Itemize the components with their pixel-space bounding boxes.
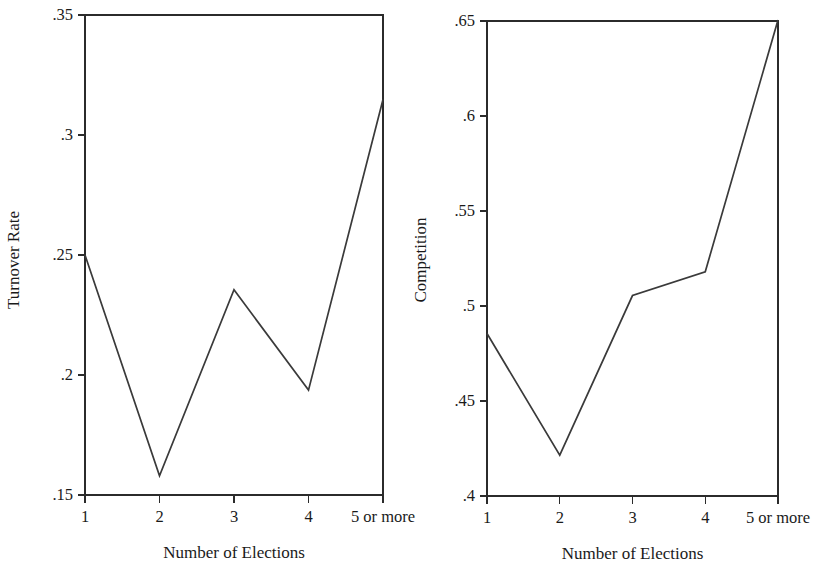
- x-tick-label: 2: [155, 509, 163, 526]
- x-tick-label: 2: [556, 510, 564, 527]
- figure-two-panel-line-charts: Turnover Rate .15.2.25.3.35 12345 or mor…: [0, 0, 814, 571]
- y-tick-label: .15: [0, 487, 73, 504]
- x-tick-label: 4: [304, 509, 312, 526]
- y-tick-label: .5: [407, 298, 475, 315]
- y-tick-label: .45: [407, 393, 475, 410]
- y-tick-label: .35: [0, 7, 73, 24]
- x-tick-label: 5 or more: [351, 509, 415, 526]
- plot-frame: [487, 21, 778, 496]
- x-tick-label: 4: [701, 510, 709, 527]
- x-tick-label: 3: [628, 510, 636, 527]
- x-axis-title-left: Number of Elections: [163, 543, 305, 563]
- y-tick-label: .2: [0, 367, 73, 384]
- data-series-line: [487, 20, 778, 455]
- y-tick-label: .3: [0, 127, 73, 144]
- x-tick-label: 1: [81, 509, 89, 526]
- panel-turnover-rate: Turnover Rate .15.2.25.3.35 12345 or mor…: [0, 0, 407, 571]
- y-tick-label: .25: [0, 247, 73, 264]
- y-tick-label: .4: [407, 488, 475, 505]
- y-tick-label: .55: [407, 203, 475, 220]
- x-tick-label: 3: [230, 509, 238, 526]
- x-axis-title-right: Number of Elections: [562, 544, 704, 564]
- plot-frame: [85, 15, 383, 495]
- panel-competition: Competition .4.45.5.55.6.65 12345 or mor…: [407, 0, 814, 571]
- data-series-line: [85, 99, 383, 475]
- x-tick-label: 5 or more: [746, 510, 810, 527]
- x-tick-label: 1: [483, 510, 491, 527]
- y-tick-label: .6: [407, 108, 475, 125]
- y-tick-label: .65: [407, 13, 475, 30]
